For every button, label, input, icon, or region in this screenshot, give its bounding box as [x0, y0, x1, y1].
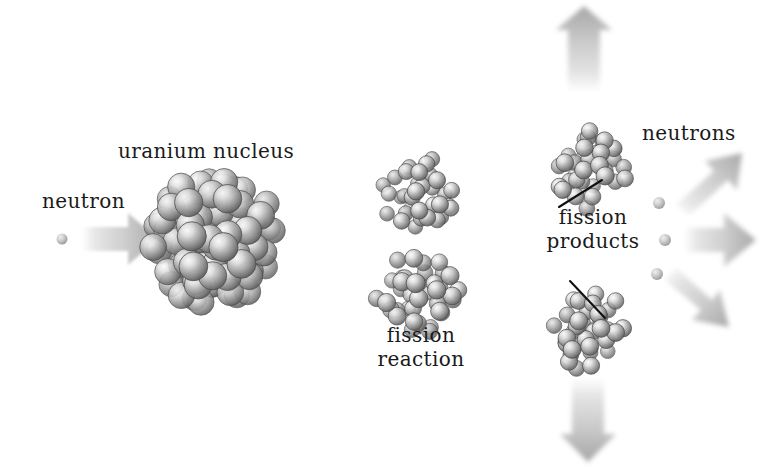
diagram-artwork: [0, 0, 764, 470]
label-fission-reaction-line1: fission: [387, 323, 455, 347]
neutron-arrow-right: [684, 213, 756, 267]
energy-arrow-down: [560, 378, 616, 462]
label-neutron: neutron: [42, 190, 125, 214]
energy-arrow-up: [556, 6, 612, 92]
neutron-arrow-up-right: [676, 153, 742, 215]
emitted-neutron-dot-middle: [659, 234, 671, 246]
uranium-nucleus: [140, 169, 286, 316]
neutron-arrow-down-right: [665, 268, 729, 327]
fission-diagram: neutron uranium nucleus fission reaction…: [0, 0, 764, 470]
label-fission-products-line2: products: [547, 229, 640, 253]
label-neutrons: neutrons: [642, 122, 736, 146]
incoming-neutron-dot: [57, 234, 68, 245]
emitted-neutron-dot-upper: [653, 197, 665, 209]
label-fission-reaction: fission reaction: [366, 324, 476, 371]
emitted-neutron-dot-lower: [651, 268, 663, 280]
fission-product-top-nucleus: [551, 123, 633, 216]
label-fission-products: fission products: [537, 206, 649, 253]
label-fission-reaction-line2: reaction: [377, 347, 464, 371]
fission-reaction-top-fragment: [376, 152, 460, 235]
label-fission-products-line1: fission: [559, 205, 627, 229]
label-uranium-nucleus: uranium nucleus: [118, 140, 294, 164]
